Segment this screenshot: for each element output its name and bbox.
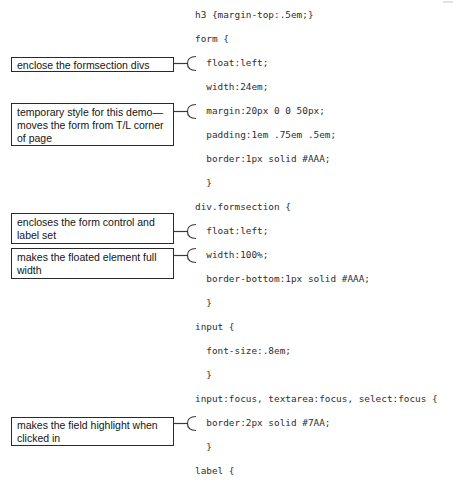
code-line: font-size:.8em;: [195, 339, 438, 363]
code-line: padding:1em .75em .5em;: [195, 123, 438, 147]
code-line: h3 {margin-top:.5em;}: [195, 3, 438, 27]
code-line: }: [195, 435, 438, 459]
callout-box: temporary style for this demo— moves the…: [11, 103, 174, 146]
callout-bracket: [174, 105, 196, 119]
code-line: }: [195, 171, 438, 195]
code-line: form {: [195, 27, 438, 51]
callout-bracket: [174, 417, 196, 431]
callout-box: encloses the form control and label set: [11, 213, 174, 244]
css-code-listing: h3 {margin-top:.5em;} form { float:left;…: [195, 3, 438, 483]
book-page: h3 {margin-top:.5em;} form { float:left;…: [0, 0, 470, 493]
code-line: border:2px solid #7AA;: [195, 411, 438, 435]
callout-bracket: [174, 249, 196, 263]
code-line: width:100%;: [195, 243, 438, 267]
code-line: div.formsection {: [195, 195, 438, 219]
callout-text: of page: [17, 132, 168, 145]
page-edge-artifact: [443, 1, 453, 3]
callout-bracket: [174, 57, 196, 71]
callout-box: makes the floated element full width: [11, 248, 174, 279]
code-line: margin:20px 0 0 50px;: [195, 99, 438, 123]
callout-text: encloses the form control and: [17, 216, 168, 229]
code-line: border:1px solid #AAA;: [195, 147, 438, 171]
code-line: input:focus, textarea:focus, select:focu…: [195, 387, 438, 411]
callout-text: makes the floated element full: [17, 251, 168, 264]
code-line: border-bottom:1px solid #AAA;: [195, 267, 438, 291]
callout-text: temporary style for this demo—: [17, 106, 168, 119]
callout-text: moves the form from T/L corner: [17, 119, 168, 132]
code-line: input {: [195, 315, 438, 339]
code-line: float:left;: [195, 51, 438, 75]
code-line: width:24em;: [195, 75, 438, 99]
code-line: }: [195, 363, 438, 387]
code-line: }: [195, 291, 438, 315]
callout-box: enclose the formsection divs: [11, 57, 174, 72]
callout-box: makes the field highlight when clicked i…: [11, 417, 174, 446]
callout-text: enclose the formsection divs: [17, 59, 168, 72]
callout-bracket: [174, 225, 196, 239]
callout-text: clicked in: [17, 432, 168, 445]
callout-text: makes the field highlight when: [17, 419, 168, 432]
callout-text: label set: [17, 229, 168, 242]
code-line: label {: [195, 459, 438, 483]
code-line: float:left;: [195, 219, 438, 243]
callout-text: width: [17, 264, 168, 277]
